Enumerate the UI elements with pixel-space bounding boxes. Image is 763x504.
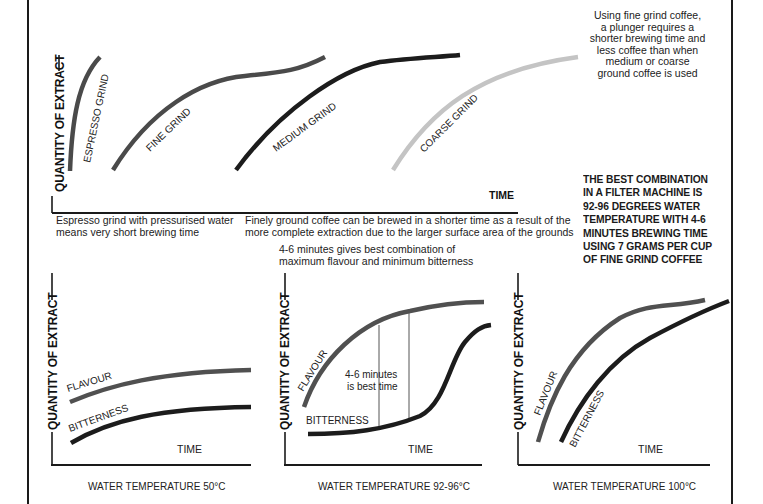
temperature-charts: QUANTITY OF EXTRACT FLAVOUR BITTERNESS T… [0,0,763,504]
best-time-annotation: is best time [347,381,398,392]
best-time-annotation: 4-6 minutes [345,369,397,380]
chart-92-96c-x-label: TIME [408,443,433,455]
chart-50c-y-label: QUANTITY OF EXTRACT [46,292,60,430]
chart-50c-x-label: TIME [177,443,202,455]
chart-100c: QUANTITY OF EXTRACT FLAVOUR BITTERNESS T… [512,273,729,465]
chart-92-96c-bitterness-label: BITTERNESS [306,415,369,426]
chart-100c-caption: WATER TEMPERATURE 100°C [553,481,696,492]
chart-50c: QUANTITY OF EXTRACT FLAVOUR BITTERNESS T… [46,273,251,465]
chart-100c-y-label: QUANTITY OF EXTRACT [512,292,526,430]
chart-50c-caption: WATER TEMPERATURE 50°C [88,481,226,492]
chart-92-96c: QUANTITY OF EXTRACT FLAVOUR BITTERNESS 4… [278,273,491,465]
chart-100c-x-label: TIME [638,443,663,455]
chart-92-96c-caption: WATER TEMPERATURE 92-96°C [318,481,470,492]
chart-92-96c-y-label: QUANTITY OF EXTRACT [278,292,292,430]
